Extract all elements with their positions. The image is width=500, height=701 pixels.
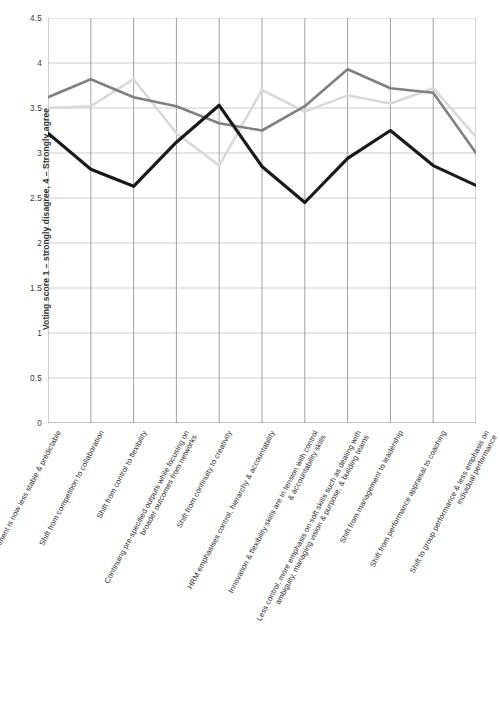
y-axis-tick: 3.5 bbox=[14, 104, 42, 113]
x-axis-tick: HRM emphasises control, hierarchy & acco… bbox=[185, 429, 277, 591]
y-axis-tick: 4 bbox=[14, 59, 42, 68]
y-axis-tick: 4.5 bbox=[14, 14, 42, 23]
y-axis-tick: 0.5 bbox=[14, 374, 42, 383]
x-axis-tick-labels: Environment is now less stable & predict… bbox=[0, 423, 482, 701]
y-axis-tick: 2 bbox=[14, 239, 42, 248]
plot-area bbox=[48, 18, 476, 423]
y-axis-tick: 1.5 bbox=[14, 284, 42, 293]
plot-svg bbox=[48, 18, 476, 423]
x-axis-tick: Shift to group performance & less emphas… bbox=[408, 429, 500, 579]
gridlines bbox=[48, 18, 476, 423]
y-axis-tick: 1 bbox=[14, 329, 42, 338]
y-axis-tick: 2.5 bbox=[14, 194, 42, 203]
x-axis-tick: Environment is now less stable & predict… bbox=[0, 429, 63, 568]
y-axis-tick: 3 bbox=[14, 149, 42, 158]
